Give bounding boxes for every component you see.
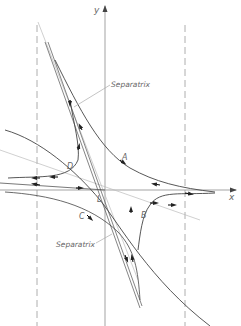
label-D: D (67, 162, 73, 171)
trajectory-C (5, 130, 210, 326)
label-L: L (97, 195, 101, 204)
arrow-icon (154, 184, 160, 185)
label-C: C (79, 212, 85, 221)
separatrix-line-2 (0, 183, 105, 190)
separatrix-leader-bottom (96, 234, 112, 243)
trajectory-B (138, 193, 215, 250)
arrow-icon (80, 126, 82, 130)
label-A: A (121, 153, 127, 162)
arrow-icon (132, 257, 133, 262)
arrow-icon (34, 184, 40, 185)
separatrix-label-top: Separatrix (111, 80, 151, 89)
y-axis-label: y (93, 5, 100, 15)
arrow-icon (87, 215, 91, 219)
label-B: B (141, 211, 147, 220)
phase-portrait-diagram: y x Separatrix Separatrix A B C D L (0, 0, 241, 326)
separatrix-label-bottom: Separatrix (56, 240, 96, 249)
x-axis-label: x (228, 192, 235, 202)
